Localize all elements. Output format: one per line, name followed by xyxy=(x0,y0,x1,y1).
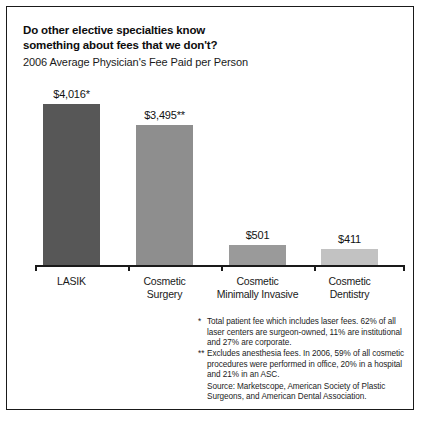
footnote-2-marker: ** xyxy=(198,349,204,360)
x-axis-tick xyxy=(403,265,405,271)
footnote-1-text: Total patient fee which includes laser f… xyxy=(207,317,402,347)
chart-figure: Do other elective specialties know somet… xyxy=(6,6,414,410)
bar xyxy=(43,104,100,265)
bar xyxy=(229,245,286,265)
x-axis-tick xyxy=(314,265,316,271)
x-axis-tick xyxy=(35,265,37,271)
footnote-2-text: Excludes anesthesia fees. In 2006, 59% o… xyxy=(207,349,404,379)
bar xyxy=(321,249,378,265)
footnote-1-marker: * xyxy=(198,317,201,328)
footnote-2: ** Excludes anesthesia fees. In 2006, 59… xyxy=(198,349,410,381)
bar xyxy=(136,125,193,265)
footnote-source: Source: Marketscope, American Society of… xyxy=(198,382,410,403)
bar-value-label: $501 xyxy=(207,229,308,241)
x-axis-tick xyxy=(128,265,130,271)
footnote-source-text: Source: Marketscope, American Society of… xyxy=(207,382,385,402)
x-axis-tick xyxy=(221,265,223,271)
bar-value-label: $3,495** xyxy=(114,109,215,121)
bar-value-label: $4,016* xyxy=(21,88,122,100)
bar-value-label: $411 xyxy=(299,233,400,245)
footnotes: * Total patient fee which includes laser… xyxy=(198,317,410,403)
category-label-line: Cosmetic xyxy=(295,275,404,288)
category-label-line: Dentistry xyxy=(295,288,404,301)
footnote-1: * Total patient fee which includes laser… xyxy=(198,317,410,349)
x-axis-category-label: CosmeticDentistry xyxy=(295,275,404,301)
x-axis-line xyxy=(35,265,403,267)
